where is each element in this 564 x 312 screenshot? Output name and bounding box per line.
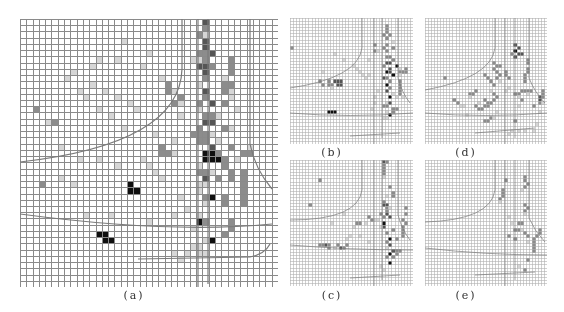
boundary-curve xyxy=(20,214,272,227)
boundary-curve xyxy=(20,19,182,162)
boundary-curve xyxy=(425,18,495,90)
caption-a: (a) xyxy=(104,289,164,302)
boundary-curve xyxy=(290,160,362,220)
caption-c: (c) xyxy=(302,289,362,302)
boundary-curve xyxy=(138,244,270,259)
boundary-curve xyxy=(290,245,413,250)
boundary-curve xyxy=(529,160,545,242)
boundary-curves-d xyxy=(425,18,547,144)
panel-a xyxy=(20,19,278,287)
panel-e xyxy=(425,160,547,286)
boundary-curves-e xyxy=(425,160,547,286)
boundary-curve xyxy=(425,160,495,222)
boundary-curve xyxy=(398,160,410,240)
caption-d: (d) xyxy=(436,146,496,159)
boundary-curves-a xyxy=(20,19,278,287)
boundary-curves-b xyxy=(290,18,413,144)
boundary-curve xyxy=(529,18,545,103)
boundary-curve xyxy=(425,248,547,255)
panel-c xyxy=(290,160,413,286)
boundary-curve xyxy=(350,133,400,136)
caption-b: (b) xyxy=(302,146,362,159)
caption-e: (e) xyxy=(436,289,496,302)
boundary-curve xyxy=(290,113,413,116)
boundary-curve xyxy=(350,275,400,278)
boundary-curves-c xyxy=(290,160,413,286)
boundary-curve xyxy=(290,18,362,88)
panel-d xyxy=(425,18,547,144)
panel-b xyxy=(290,18,413,144)
boundary-curve xyxy=(250,19,272,189)
boundary-curve xyxy=(398,18,410,103)
boundary-curve xyxy=(425,113,547,116)
